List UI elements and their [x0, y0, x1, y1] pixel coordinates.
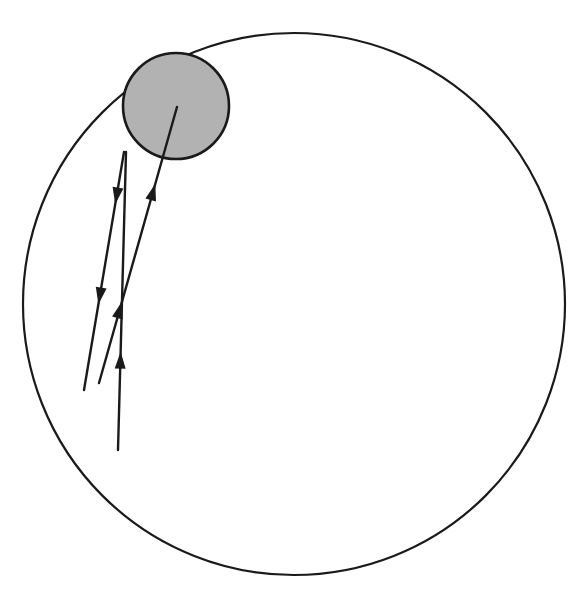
- figure-root: Orbital trajectory diagram A large thin-…: [0, 0, 578, 593]
- orbital-trajectory-figure: Orbital trajectory diagram A large thin-…: [0, 0, 578, 593]
- figure-background: [0, 0, 578, 593]
- shaded-disk: [123, 53, 229, 159]
